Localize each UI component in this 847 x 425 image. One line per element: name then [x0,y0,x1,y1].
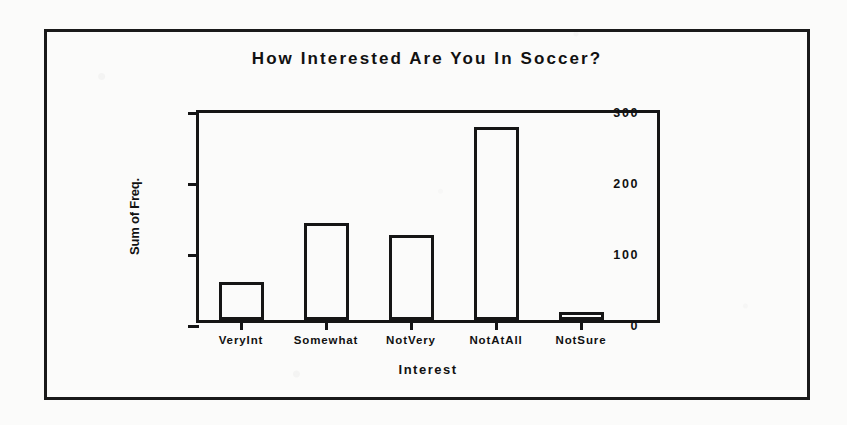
y-axis-tick-label: 100 [613,248,639,262]
bar-veryint[interactable] [219,282,264,320]
x-axis-tick [410,320,413,330]
y-axis-tick [188,112,199,115]
y-axis-tick [188,325,199,328]
x-axis-title: Interest [196,362,660,377]
x-axis-tick-label: NotVery [386,334,436,346]
y-axis-tick [188,183,199,186]
chart-frame: How Interested Are You In Soccer? Sum of… [44,29,810,400]
plot-area: 0100200300VeryIntSomewhatNotVeryNotAtAll… [196,110,660,323]
x-axis-tick [580,320,583,330]
bar-notvery[interactable] [389,235,434,320]
x-axis-tick [325,320,328,330]
x-axis-tick-label: NotAtAll [469,334,522,346]
y-axis-tick [188,254,199,257]
chart-title: How Interested Are You In Soccer? [47,49,807,69]
x-axis-tick [495,320,498,330]
x-axis-tick-label: NotSure [555,334,606,346]
bar-notsure[interactable] [559,312,604,320]
y-axis-tick-label: 200 [613,177,639,191]
y-axis-title: Sum of Freq. [125,110,145,323]
y-axis-title-label: Sum of Freq. [128,178,143,255]
x-axis-tick-label: Somewhat [294,334,359,346]
y-axis-tick-label: 0 [630,319,639,333]
x-axis-tick-label: VeryInt [219,334,264,346]
x-axis-tick [240,320,243,330]
bar-somewhat[interactable] [304,223,349,320]
bar-notatall[interactable] [474,127,519,320]
y-axis-tick-label: 300 [613,106,639,120]
